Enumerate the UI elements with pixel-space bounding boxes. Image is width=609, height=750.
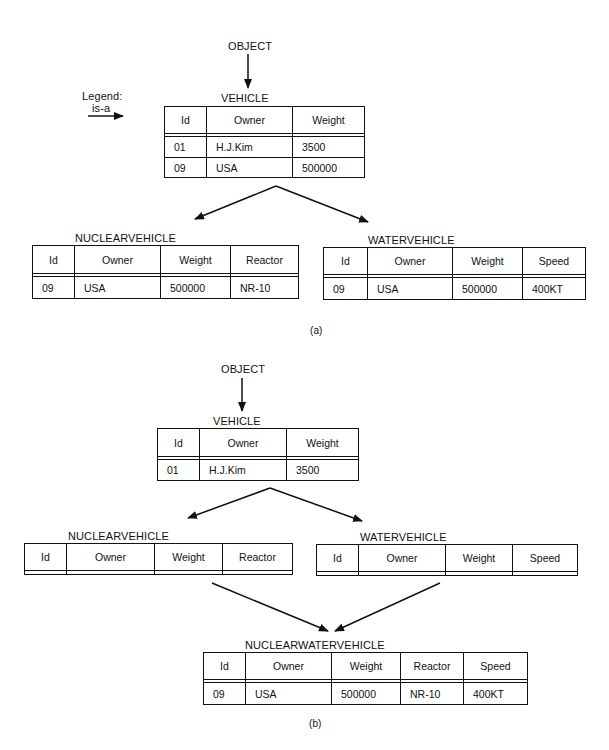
watervehicle-title-a: WATERVEHICLE	[368, 234, 455, 246]
header-separator	[317, 571, 577, 575]
cell-id: 09	[33, 277, 75, 298]
column-header: Owner	[200, 429, 287, 456]
header-row: Id Owner Weight	[165, 107, 364, 133]
cell-weight: 500000	[161, 277, 231, 298]
header-row: Id Owner Weight Reactor	[33, 246, 298, 273]
nuclearvehicle-table-a: Id Owner Weight Reactor 09 USA 500000 NR…	[32, 245, 299, 299]
cell-owner: USA	[207, 158, 293, 177]
column-header: Id	[204, 653, 246, 679]
cell-id: 01	[165, 137, 207, 157]
vehicle-title-b: VEHICLE	[213, 415, 261, 427]
nuclearvehicle-title-b: NUCLEARVEHICLE	[68, 530, 169, 542]
header-row: Id Owner Weight Speed	[324, 248, 585, 274]
column-header: Owner	[67, 544, 155, 570]
caption-a: (a)	[310, 325, 323, 336]
cell-owner: USA	[246, 683, 332, 704]
column-header: Weight	[161, 246, 231, 273]
vehicle-title-a: VEHICLE	[221, 92, 269, 104]
column-header: Owner	[75, 246, 161, 273]
caption-b: (b)	[309, 718, 322, 729]
column-header: Weight	[287, 429, 358, 456]
column-header: Speed	[523, 248, 585, 274]
header-row: Id Owner Weight Reactor Speed	[204, 653, 527, 679]
header-row: Id Owner Weight Speed	[317, 545, 577, 571]
column-header: Reactor	[231, 246, 298, 273]
column-header: Id	[324, 248, 368, 274]
table-row: 01 H.J.Kim 3500	[158, 460, 358, 480]
vehicle-table-a: Id Owner Weight 01 H.J.Kim 3500 09 USA 5…	[164, 106, 365, 178]
cell-owner: H.J.Kim	[207, 137, 293, 157]
cell-id: 09	[165, 158, 207, 177]
cell-speed: 400KT	[523, 278, 585, 299]
cell-weight: 500000	[293, 158, 364, 177]
column-header: Owner	[368, 248, 453, 274]
cell-owner: USA	[368, 278, 453, 299]
nuclearwatervehicle-table: Id Owner Weight Reactor Speed 09 USA 500…	[203, 652, 528, 705]
column-header: Reactor	[223, 544, 292, 570]
table-row: 01 H.J.Kim 3500	[165, 137, 364, 157]
cell-weight: 500000	[453, 278, 523, 299]
column-header: Id	[158, 429, 200, 456]
header-row: Id Owner Weight	[158, 429, 358, 456]
cell-owner: H.J.Kim	[200, 460, 287, 480]
cell-weight: 500000	[332, 683, 401, 704]
column-header: Speed	[513, 545, 577, 571]
watervehicle-title-b: WATERVEHICLE	[360, 531, 447, 543]
cell-id: 01	[158, 460, 200, 480]
cell-owner: USA	[75, 277, 161, 298]
cell-id: 09	[204, 683, 246, 704]
table-row: 09 USA 500000 NR-10	[33, 277, 298, 298]
column-header: Speed	[464, 653, 527, 679]
table-row: 09 USA 500000 400KT	[324, 278, 585, 299]
header-separator	[25, 570, 292, 574]
cell-id: 09	[324, 278, 368, 299]
legend-title: Legend:	[82, 90, 122, 102]
nuclearwatervehicle-title: NUCLEARWATERVEHICLE	[245, 639, 385, 651]
watervehicle-table-b: Id Owner Weight Speed	[316, 544, 578, 576]
column-header: Owner	[246, 653, 332, 679]
column-header: Weight	[293, 107, 364, 133]
cell-reactor: NR-10	[231, 277, 298, 298]
column-header: Id	[165, 107, 207, 133]
column-header: Weight	[332, 653, 401, 679]
column-header: Owner	[359, 545, 446, 571]
vehicle-table-b: Id Owner Weight 01 H.J.Kim 3500	[157, 428, 359, 481]
cell-reactor: NR-10	[401, 683, 464, 704]
column-header: Id	[317, 545, 359, 571]
column-header: Weight	[446, 545, 513, 571]
column-header: Id	[33, 246, 75, 273]
legend-relation: is-a	[92, 102, 110, 114]
object-label-b: OBJECT	[221, 363, 265, 375]
cell-weight: 3500	[287, 460, 358, 480]
column-header: Reactor	[401, 653, 464, 679]
table-row: 09 USA 500000	[165, 157, 364, 177]
column-header: Id	[25, 544, 67, 570]
cell-weight: 3500	[293, 137, 364, 157]
column-header: Weight	[155, 544, 223, 570]
header-row: Id Owner Weight Reactor	[25, 544, 292, 570]
table-row: 09 USA 500000 NR-10 400KT	[204, 683, 527, 704]
column-header: Weight	[453, 248, 523, 274]
cell-speed: 400KT	[464, 683, 527, 704]
nuclearvehicle-table-b: Id Owner Weight Reactor	[24, 543, 293, 575]
nuclearvehicle-title-a: NUCLEARVEHICLE	[75, 232, 176, 244]
object-label-a: OBJECT	[228, 40, 272, 52]
column-header: Owner	[207, 107, 293, 133]
watervehicle-table-a: Id Owner Weight Speed 09 USA 500000 400K…	[323, 247, 586, 300]
